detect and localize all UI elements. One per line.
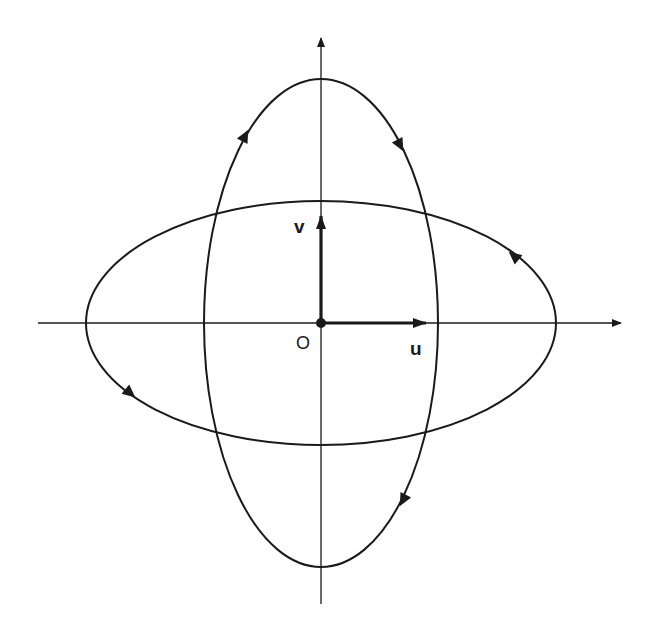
- diagram-canvas: O u v: [0, 0, 648, 634]
- flow-arrow-icon: [237, 127, 254, 144]
- origin-point: [316, 318, 326, 328]
- u-label: u: [410, 338, 422, 359]
- phase-diagram: O u v: [0, 0, 648, 634]
- flow-arrow-icon: [392, 137, 409, 154]
- flow-arrow-icon: [394, 492, 411, 509]
- origin-label: O: [296, 333, 310, 353]
- v-label: v: [294, 216, 305, 237]
